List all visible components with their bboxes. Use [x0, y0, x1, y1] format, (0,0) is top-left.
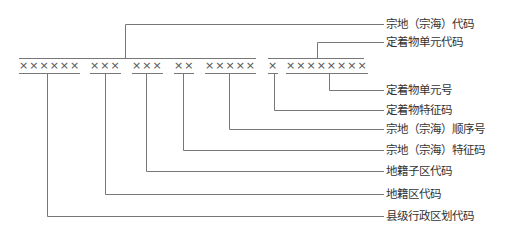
label-parcel-sequence-number: 宗地（宗海）顺序号 [386, 122, 485, 136]
segment-cadastral-subdistrict: ××× [132, 59, 163, 74]
label-cadastral-subdistrict-code: 地籍子区代码 [386, 164, 452, 178]
segment-county: ×××××× [19, 59, 80, 74]
segment-parcel-sequence: ××××× [205, 59, 256, 74]
label-parcel-code: 宗地（宗海）代码 [386, 17, 474, 31]
label-fixture-unit-code: 定着物单元代码 [386, 35, 463, 49]
fixture-unit-code-leader [318, 43, 385, 59]
county-leader [48, 74, 385, 217]
label-fixture-unit-number: 定着物单元号 [386, 83, 452, 97]
segment-fixture-feature: × [268, 59, 278, 74]
parcel-feature-leader [184, 74, 385, 151]
label-county-admin-code: 县级行政区划代码 [386, 209, 474, 223]
segment-fixture-unit-number: ×××××××× [286, 59, 368, 74]
parcel-sequence-leader [230, 74, 385, 130]
label-cadastral-district-code: 地籍区代码 [386, 187, 441, 201]
segment-parcel-feature: ×× [174, 59, 194, 74]
label-parcel-feature-code: 宗地（宗海）特征码 [386, 143, 485, 157]
fixture-unit-number-leader [330, 74, 385, 91]
district-leader [106, 74, 385, 195]
subdistrict-leader [147, 74, 385, 172]
label-fixture-feature-code: 定着物特征码 [386, 103, 452, 117]
segment-cadastral-district: ××× [90, 59, 121, 74]
parcel-code-leader [126, 25, 385, 59]
